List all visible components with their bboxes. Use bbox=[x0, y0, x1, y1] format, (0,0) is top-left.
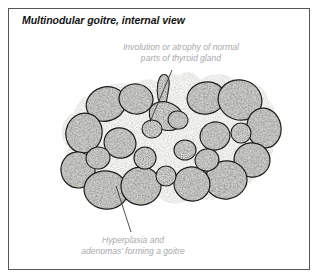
hyperplasia-annotation-line1: Hyperplasia and bbox=[48, 235, 218, 246]
page-title: Multinodular goitre, internal view bbox=[22, 14, 185, 26]
involution-annotation: Involution or atrophy of normal parts of… bbox=[102, 42, 260, 63]
involution-annotation-line2: parts of thyroid gland bbox=[102, 53, 260, 64]
involution-annotation-line1: Involution or atrophy of normal bbox=[102, 42, 260, 53]
hyperplasia-annotation: Hyperplasia and adenomas’ forming a goit… bbox=[48, 235, 218, 256]
hyperplasia-annotation-line2: adenomas’ forming a goitre bbox=[48, 246, 218, 257]
figure-page: Multinodular goitre, internal view Invol… bbox=[0, 0, 320, 280]
